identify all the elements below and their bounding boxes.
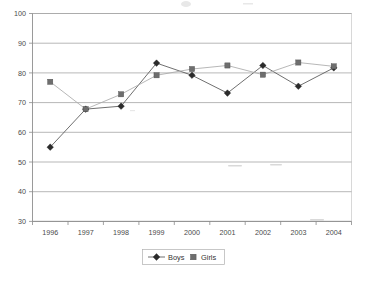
x-tick-label-1998: 1998 <box>113 228 129 237</box>
chart-legend: Boys Girls <box>143 250 225 265</box>
data-point-girls-2003 <box>296 60 301 65</box>
data-series-layer <box>47 60 337 151</box>
data-point-girls-2004 <box>331 64 336 69</box>
y-tick-label: 100 <box>14 9 26 18</box>
x-tick-marks <box>33 221 352 225</box>
x-tick-label-2000: 2000 <box>184 228 200 237</box>
x-tick-label-2004: 2004 <box>326 228 342 237</box>
chart-canvas: 100 90 80 70 60 50 40 30 1996 1997 199 <box>0 0 367 281</box>
x-axis-tick-labels: 1996 1997 1998 1999 2000 2001 2002 2003 … <box>42 228 342 237</box>
y-tick-marks <box>29 14 33 222</box>
y-tick-label: 30 <box>18 217 26 226</box>
y-tick-label: 40 <box>18 187 26 196</box>
x-tick-label-2003: 2003 <box>290 228 306 237</box>
x-tick-label-2001: 2001 <box>220 228 236 237</box>
series-boys <box>47 60 337 151</box>
y-axis-tick-labels: 100 90 80 70 60 50 40 30 <box>14 9 26 226</box>
legend-label-girls: Girls <box>201 253 216 262</box>
data-point-girls-2002 <box>260 72 265 77</box>
scan-artifacts <box>130 1 324 220</box>
gridlines-y <box>33 14 352 222</box>
plot-area-border <box>33 14 352 222</box>
y-tick-label: 90 <box>18 39 26 48</box>
data-point-girls-1999 <box>154 73 159 78</box>
data-point-girls-1996 <box>48 79 53 84</box>
data-point-girls-2001 <box>225 63 230 68</box>
series-girls <box>48 60 337 112</box>
y-tick-label: 50 <box>18 158 26 167</box>
legend-label-boys: Boys <box>168 253 185 262</box>
legend-marker-girls-square-icon <box>191 254 197 260</box>
x-tick-label-2002: 2002 <box>255 228 271 237</box>
y-tick-label: 80 <box>18 69 26 78</box>
data-point-boys-2003 <box>295 83 302 90</box>
x-tick-label-1999: 1999 <box>149 228 165 237</box>
x-tick-label-1996: 1996 <box>42 228 58 237</box>
y-tick-label: 60 <box>18 128 26 137</box>
data-point-girls-1998 <box>119 92 124 97</box>
x-tick-label-1997: 1997 <box>78 228 94 237</box>
data-point-girls-1997 <box>83 107 88 112</box>
line-chart: 100 90 80 70 60 50 40 30 1996 1997 199 <box>0 0 367 281</box>
y-tick-label: 70 <box>18 98 26 107</box>
data-point-girls-2000 <box>189 66 194 71</box>
